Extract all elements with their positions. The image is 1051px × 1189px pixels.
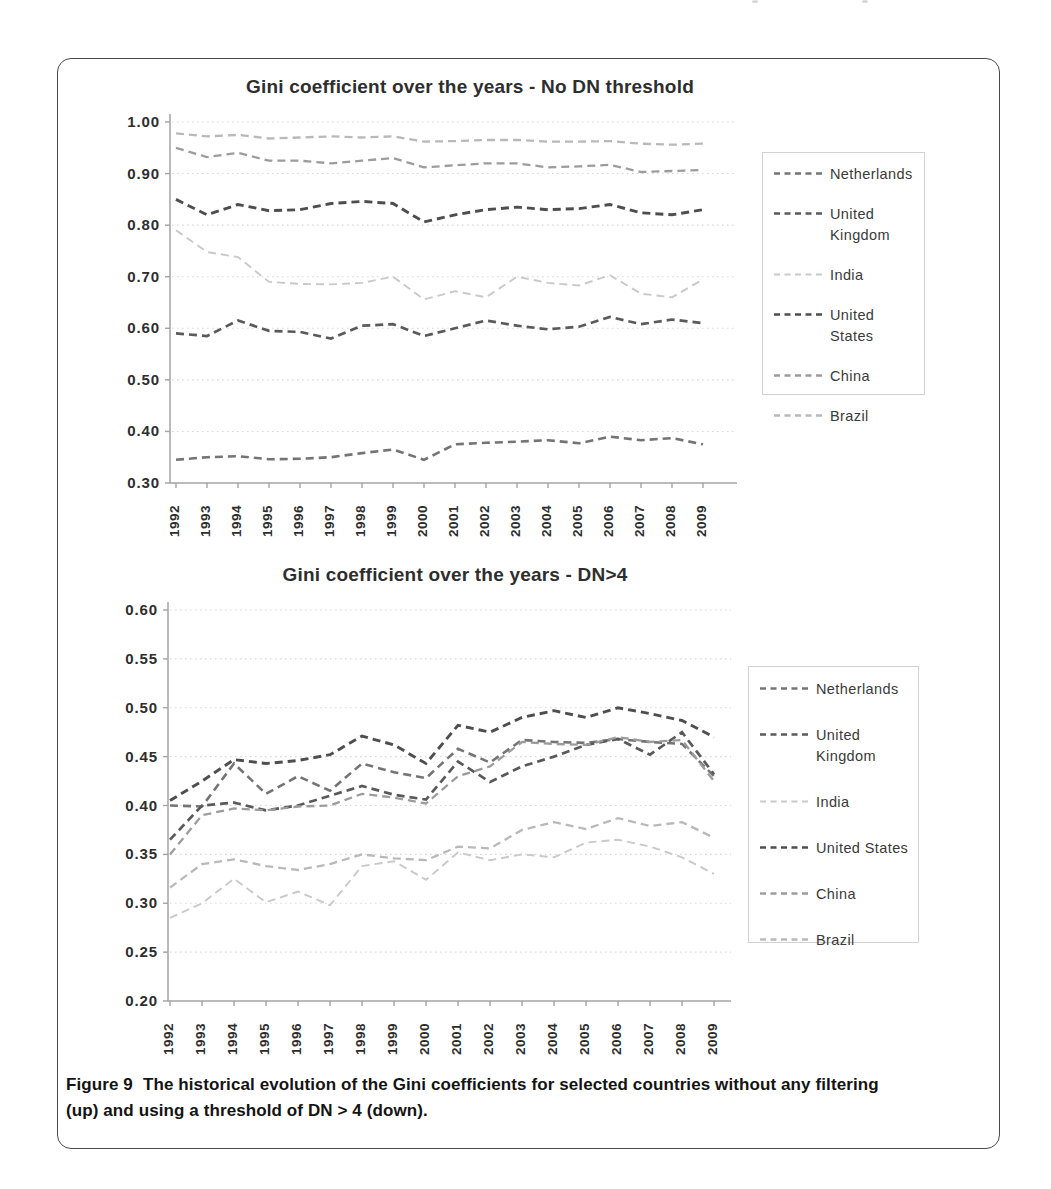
- x-tick-label: 1997: [322, 489, 337, 537]
- stray-ink-mark: [862, 0, 868, 3]
- legend-label: United Kingdom: [830, 204, 916, 246]
- x-tick-label: 2008: [663, 489, 678, 537]
- y-tick-label: 0.35: [98, 845, 158, 862]
- legend-item-china: China: [774, 366, 916, 387]
- y-tick-label: 0.60: [98, 601, 158, 618]
- x-tick-label: 2004: [545, 1007, 560, 1055]
- x-tick-label: 1994: [225, 1007, 240, 1055]
- x-tick-label: 2006: [601, 489, 616, 537]
- legend-dash-swatch: [760, 891, 812, 896]
- legend-item-india: India: [760, 792, 910, 813]
- x-tick-label: 1999: [385, 1007, 400, 1055]
- legend-dash-swatch: [760, 732, 812, 737]
- x-tick-label: 2007: [641, 1007, 656, 1055]
- legend-dash-swatch: [760, 937, 812, 942]
- top-chart-title: Gini coefficient over the years - No DN …: [185, 76, 755, 98]
- x-tick-label: 2003: [513, 1007, 528, 1055]
- x-tick-label: 2009: [694, 489, 709, 537]
- figure-caption-text: The historical evolution of the Gini coe…: [66, 1075, 879, 1120]
- x-tick-label: 1992: [167, 489, 182, 537]
- legend-dash-swatch: [774, 413, 826, 418]
- x-tick-label: 1998: [353, 1007, 368, 1055]
- y-tick-label: 0.70: [100, 268, 160, 285]
- legend-label: United Kingdom: [816, 725, 910, 767]
- legend-dash-swatch: [760, 686, 812, 691]
- stray-ink-mark: [752, 0, 758, 3]
- x-tick-label: 1993: [193, 1007, 208, 1055]
- x-tick-label: 2001: [446, 489, 461, 537]
- x-tick-label: 2007: [632, 489, 647, 537]
- legend-label: Netherlands: [816, 679, 910, 700]
- x-tick-label: 1994: [229, 489, 244, 537]
- x-tick-label: 1999: [384, 489, 399, 537]
- x-tick-label: 1992: [161, 1007, 176, 1055]
- legend-item-brazil: Brazil: [760, 930, 910, 951]
- x-tick-label: 1996: [291, 489, 306, 537]
- legend-item-brazil: Brazil: [774, 406, 916, 427]
- legend-label: Netherlands: [830, 164, 916, 185]
- y-tick-label: 0.90: [100, 165, 160, 182]
- x-tick-label: 2002: [481, 1007, 496, 1055]
- x-tick-label: 2008: [673, 1007, 688, 1055]
- legend-dash-swatch: [774, 373, 826, 378]
- legend-dash-swatch: [774, 171, 826, 176]
- legend-label: Brazil: [830, 406, 916, 427]
- y-tick-label: 1.00: [100, 113, 160, 130]
- y-tick-label: 0.50: [98, 699, 158, 716]
- legend-label: India: [830, 265, 916, 286]
- legend-label: United States: [830, 305, 916, 347]
- x-tick-label: 2004: [539, 489, 554, 537]
- x-tick-label: 2006: [609, 1007, 624, 1055]
- legend-dash-swatch: [774, 272, 826, 277]
- legend-item-united-states: United States: [774, 305, 916, 347]
- y-tick-label: 0.60: [100, 319, 160, 336]
- x-tick-label: 2001: [449, 1007, 464, 1055]
- y-tick-label: 0.80: [100, 216, 160, 233]
- legend-dash-swatch: [774, 211, 826, 216]
- y-tick-label: 0.40: [98, 797, 158, 814]
- legend-label: India: [816, 792, 910, 813]
- y-tick-label: 0.20: [98, 992, 158, 1009]
- legend-dash-swatch: [760, 845, 812, 850]
- legend-item-netherlands: Netherlands: [760, 679, 910, 700]
- x-tick-label: 1993: [198, 489, 213, 537]
- x-tick-label: 2000: [417, 1007, 432, 1055]
- legend-item-united-states: United States: [760, 838, 910, 859]
- legend-label: China: [830, 366, 916, 387]
- y-tick-label: 0.40: [100, 422, 160, 439]
- y-tick-label: 0.45: [98, 748, 158, 765]
- x-tick-label: 2002: [477, 489, 492, 537]
- bottom-chart-legend: NetherlandsUnited KingdomIndiaUnited Sta…: [748, 666, 919, 943]
- legend-label: United States: [816, 838, 910, 859]
- legend-label: Brazil: [816, 930, 910, 951]
- x-tick-label: 2005: [570, 489, 585, 537]
- x-tick-label: 1997: [321, 1007, 336, 1055]
- legend-label: China: [816, 884, 910, 905]
- figure-caption: Figure 9The historical evolution of the …: [66, 1072, 906, 1123]
- y-tick-label: 0.55: [98, 650, 158, 667]
- x-tick-label: 2005: [577, 1007, 592, 1055]
- y-tick-label: 0.50: [100, 371, 160, 388]
- y-tick-label: 0.30: [100, 474, 160, 491]
- x-tick-label: 2000: [415, 489, 430, 537]
- x-tick-label: 2009: [705, 1007, 720, 1055]
- bottom-chart-title: Gini coefficient over the years - DN>4: [170, 564, 740, 586]
- y-tick-label: 0.30: [98, 894, 158, 911]
- legend-item-netherlands: Netherlands: [774, 164, 916, 185]
- legend-item-united-kingdom: United Kingdom: [774, 204, 916, 246]
- y-tick-label: 0.25: [98, 943, 158, 960]
- legend-item-united-kingdom: United Kingdom: [760, 725, 910, 767]
- x-tick-label: 2003: [508, 489, 523, 537]
- figure-caption-label: Figure 9: [66, 1075, 133, 1094]
- x-tick-label: 1996: [289, 1007, 304, 1055]
- legend-item-india: India: [774, 265, 916, 286]
- legend-dash-swatch: [760, 799, 812, 804]
- top-chart-legend: NetherlandsUnited KingdomIndiaUnited Sta…: [762, 152, 925, 395]
- legend-dash-swatch: [774, 312, 826, 317]
- x-tick-label: 1995: [257, 1007, 272, 1055]
- x-tick-label: 1998: [353, 489, 368, 537]
- x-tick-label: 1995: [260, 489, 275, 537]
- legend-item-china: China: [760, 884, 910, 905]
